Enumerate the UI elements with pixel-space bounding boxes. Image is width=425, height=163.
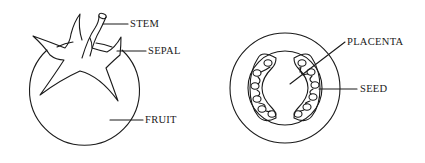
label-sepal: SEPAL <box>148 46 181 57</box>
label-fruit: FRUIT <box>145 115 177 126</box>
tomato-cross-section-figure <box>230 33 357 143</box>
label-placenta: PLACENTA <box>347 37 403 48</box>
label-stem: STEM <box>130 19 159 30</box>
label-seed: SEED <box>360 84 387 95</box>
tomato-whole-figure <box>30 12 147 145</box>
fruit-outline <box>30 50 140 145</box>
tomato-diagram <box>0 0 425 163</box>
sepal-shape <box>33 14 121 101</box>
outer-wall <box>230 33 340 143</box>
inner-wall <box>248 51 322 125</box>
